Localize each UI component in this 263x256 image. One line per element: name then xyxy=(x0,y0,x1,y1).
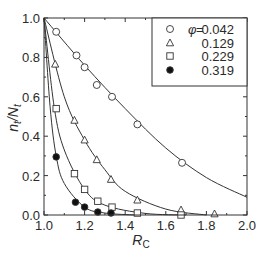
y-tick-label: 0.2 xyxy=(22,169,40,184)
x-tick-label: 2.0 xyxy=(238,218,256,233)
data-point-open-square xyxy=(53,105,59,111)
data-point-open-circle xyxy=(134,121,141,128)
legend-equals: = xyxy=(196,22,204,37)
data-point-open-triangle xyxy=(52,60,59,67)
data-point-open-square xyxy=(71,170,77,176)
legend-label: 0.042 xyxy=(201,22,234,37)
data-point-open-triangle xyxy=(211,210,218,217)
data-point-filled-circle xyxy=(81,204,88,211)
chart: 1.01.21.41.61.82.0 0.00.20.40.60.81.0 0.… xyxy=(0,0,263,256)
data-point-open-triangle xyxy=(71,116,78,123)
data-point-open-square xyxy=(95,198,101,204)
data-point-filled-circle xyxy=(94,209,101,216)
x-axis-label: RC xyxy=(132,232,149,250)
data-point-filled-circle xyxy=(53,154,60,161)
x-tick-label: 1.2 xyxy=(76,218,94,233)
legend-marker-filled-circle xyxy=(167,67,174,74)
y-axis-label: nt/Nt xyxy=(5,103,23,132)
data-point-open-triangle xyxy=(93,156,100,163)
x-tick-label: 1.4 xyxy=(116,218,134,233)
data-point-open-circle xyxy=(81,64,88,71)
legend-marker-open-circle xyxy=(167,26,174,33)
y-tick-label: 0.4 xyxy=(22,129,40,144)
data-point-filled-circle xyxy=(72,199,79,206)
y-tick-label: 0.6 xyxy=(22,90,40,105)
x-tick-label: 1.6 xyxy=(157,218,175,233)
data-point-open-square xyxy=(81,186,87,192)
data-point-open-triangle xyxy=(81,136,88,143)
x-tick-label: 1.8 xyxy=(197,218,215,233)
y-tick-label: 0.0 xyxy=(22,208,40,223)
legend-label: 0.319 xyxy=(201,63,234,78)
data-point-open-circle xyxy=(93,81,100,88)
y-tick-label: 0.8 xyxy=(22,50,40,65)
data-point-open-circle xyxy=(73,52,80,59)
data-point-open-square xyxy=(109,204,115,210)
legend: 0.0420.1290.2290.319φ= xyxy=(152,18,247,86)
data-point-open-circle xyxy=(179,159,186,166)
fit-curve xyxy=(44,18,135,215)
y-tick-label: 1.0 xyxy=(22,11,40,26)
data-point-open-circle xyxy=(53,28,60,35)
data-point-open-triangle xyxy=(107,176,114,183)
legend-label: 0.229 xyxy=(201,49,234,64)
legend-marker-open-square xyxy=(167,53,173,59)
data-point-open-circle xyxy=(109,93,116,100)
